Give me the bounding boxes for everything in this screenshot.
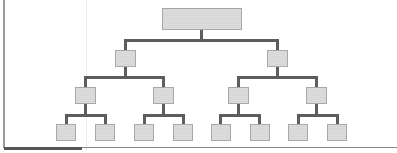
connector	[237, 76, 317, 79]
connector	[143, 114, 184, 117]
connector	[84, 76, 164, 79]
node-level4	[173, 124, 193, 141]
node-level2-right	[267, 50, 288, 67]
node-level4	[327, 124, 347, 141]
connector	[297, 114, 338, 117]
node-level3	[75, 87, 96, 104]
faint-divider	[86, 0, 87, 150]
connector	[65, 114, 106, 117]
node-level4	[250, 124, 270, 141]
node-root	[162, 8, 242, 30]
node-level4	[95, 124, 115, 141]
connector	[219, 114, 260, 117]
node-level3	[228, 87, 249, 104]
node-level4	[288, 124, 308, 141]
node-level4	[211, 124, 231, 141]
node-level4	[134, 124, 154, 141]
frame-bottom-accent	[4, 147, 82, 150]
node-level3	[153, 87, 174, 104]
connector	[124, 39, 279, 42]
frame-left-border	[3, 0, 5, 148]
node-level3	[306, 87, 327, 104]
node-level4	[56, 124, 76, 141]
node-level2-left	[115, 50, 136, 67]
